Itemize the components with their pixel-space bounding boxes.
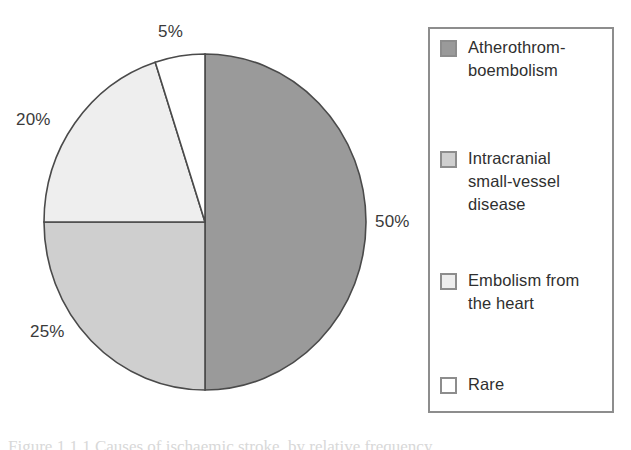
legend-label-line: boembolism <box>468 61 558 79</box>
pie-chart-graphic <box>40 50 370 395</box>
legend-label-line: disease <box>468 195 526 213</box>
pie-label-atherothromboembolism-percent: 50% <box>375 212 410 232</box>
pie-slice <box>44 222 205 390</box>
legend-label-embolism-from-the-heart: Embolism fromthe heart <box>468 269 579 315</box>
legend-label-line: Atherothrom- <box>468 38 566 56</box>
pie-label-intracranial-percent: 25% <box>30 322 65 342</box>
legend-label-line: the heart <box>468 294 534 312</box>
legend-label-rare: Rare <box>468 373 504 396</box>
legend-label-line: Intracranial <box>468 149 551 167</box>
pie-label-rare-percent: 5% <box>158 22 183 42</box>
legend-swatch-atherothromboembolism <box>440 40 457 57</box>
legend-label-line: Embolism from <box>468 271 579 289</box>
legend-swatch-embolism-from-the-heart <box>440 273 457 290</box>
pie-svg <box>40 50 370 395</box>
chart-legend: Atherothrom-boembolism Intracranialsmall… <box>428 27 614 413</box>
pie-slice <box>205 54 366 390</box>
pie-chart-figure: 5% 20% 25% 50% Atherothrom-boembolism In… <box>0 0 631 450</box>
legend-label-intracranial-small-vessel-disease: Intracranialsmall-vesseldisease <box>468 147 560 216</box>
legend-label-atherothromboembolism: Atherothrom-boembolism <box>468 36 566 82</box>
legend-swatch-rare <box>440 377 457 394</box>
legend-label-line: small-vessel <box>468 172 560 190</box>
legend-item-rare: Rare <box>440 373 608 396</box>
figure-caption: Figure 1.1.1 Causes of ischaemic stroke,… <box>8 437 623 450</box>
pie-label-embolism-percent: 20% <box>16 110 51 130</box>
legend-item-intracranial-small-vessel-disease: Intracranialsmall-vesseldisease <box>440 147 608 216</box>
pie-slices-group <box>44 54 366 390</box>
legend-label-line: Rare <box>468 375 504 393</box>
legend-swatch-intracranial-small-vessel-disease <box>440 151 457 168</box>
legend-item-atherothromboembolism: Atherothrom-boembolism <box>440 36 608 82</box>
legend-item-embolism-from-the-heart: Embolism fromthe heart <box>440 269 608 315</box>
